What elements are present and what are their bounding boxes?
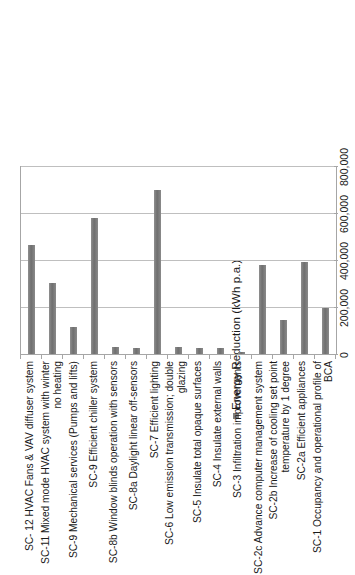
bar-row[interactable] xyxy=(168,167,189,355)
plot-area xyxy=(20,166,337,355)
category-axis-tick-label: SC-8b Window blinds operation with senso… xyxy=(104,357,124,575)
bar[interactable] xyxy=(259,265,266,355)
category-axis-tick-label: SC-9 Efficient chiller system xyxy=(84,357,104,575)
bar[interactable] xyxy=(49,283,56,355)
value-axis-labels: 0200,000400,000600,000800,000 xyxy=(338,167,354,355)
category-axis-tick-label: SC- 12 HVAC Fans & VAV diffuser system xyxy=(20,357,40,575)
category-axis-tick-label: SC-8a Daylight linear off-sensors xyxy=(124,357,144,575)
category-axis-labels: SC- 12 HVAC Fans & VAV diffuser systemSC… xyxy=(20,357,335,575)
bar-row[interactable] xyxy=(21,167,42,355)
bar-row[interactable] xyxy=(315,167,336,355)
bar-row[interactable] xyxy=(42,167,63,355)
bar-row[interactable] xyxy=(189,167,210,355)
category-axis-tick xyxy=(335,355,336,359)
bar-row[interactable] xyxy=(273,167,294,355)
bar-row[interactable] xyxy=(147,167,168,355)
bar[interactable] xyxy=(301,262,308,355)
category-axis-tick-label: SC-7 Efficient lighting xyxy=(144,357,164,575)
value-axis-tick-label: 0 xyxy=(338,352,350,358)
bar-row[interactable] xyxy=(84,167,105,355)
value-axis-tick-label: 800,000 xyxy=(338,148,350,186)
value-axis-tick-label: 200,000 xyxy=(338,289,350,327)
category-axis-tick-label: SC-1 Occupancy and operational profile o… xyxy=(312,357,335,575)
bar-row[interactable] xyxy=(231,167,252,355)
category-axis-tick-label: SC-5 Insulate total opaque surfaces xyxy=(188,357,208,575)
category-axis-tick-label: SC-4 Insulate external walls xyxy=(208,357,228,575)
category-axis-tick-label: SC-9 Mechanical services (Pumps and lift… xyxy=(63,357,83,575)
bar-row[interactable] xyxy=(252,167,273,355)
category-axis-tick-label: SC-2c Advance computer management system xyxy=(248,357,268,575)
value-axis-tick-label: 600,000 xyxy=(338,195,350,233)
bar-row[interactable] xyxy=(294,167,315,355)
bar[interactable] xyxy=(322,308,329,355)
bar[interactable] xyxy=(70,327,77,355)
bar[interactable] xyxy=(280,320,287,355)
bar-row[interactable] xyxy=(105,167,126,355)
bar[interactable] xyxy=(28,245,35,355)
bar[interactable] xyxy=(91,218,98,355)
bar-row[interactable] xyxy=(63,167,84,355)
category-axis-line xyxy=(21,354,336,355)
category-axis-tick-label: SC-3 Infiltration improvements xyxy=(228,357,248,575)
category-axis-tick-label: SC-2b Increase of cooling set point temp… xyxy=(268,357,291,575)
bar-row[interactable] xyxy=(126,167,147,355)
value-axis-tick-label: 400,000 xyxy=(338,242,350,280)
category-axis-tick-label: SC-11 Mixed mode HVAC system with winter… xyxy=(40,357,63,575)
category-axis-tick-label: SC-6 Low emission transmission; double g… xyxy=(164,357,187,575)
bar-row[interactable] xyxy=(210,167,231,355)
rotated-chart-canvas: Energy Reduction (kWh p.a.) SC- 12 HVAC … xyxy=(0,0,355,575)
category-axis-tick-label: SC-2a Efficient appliances xyxy=(292,357,312,575)
bar[interactable] xyxy=(154,190,161,355)
bar-chart: Energy Reduction (kWh p.a.) SC- 12 HVAC … xyxy=(0,0,355,575)
bar-series xyxy=(21,167,336,355)
